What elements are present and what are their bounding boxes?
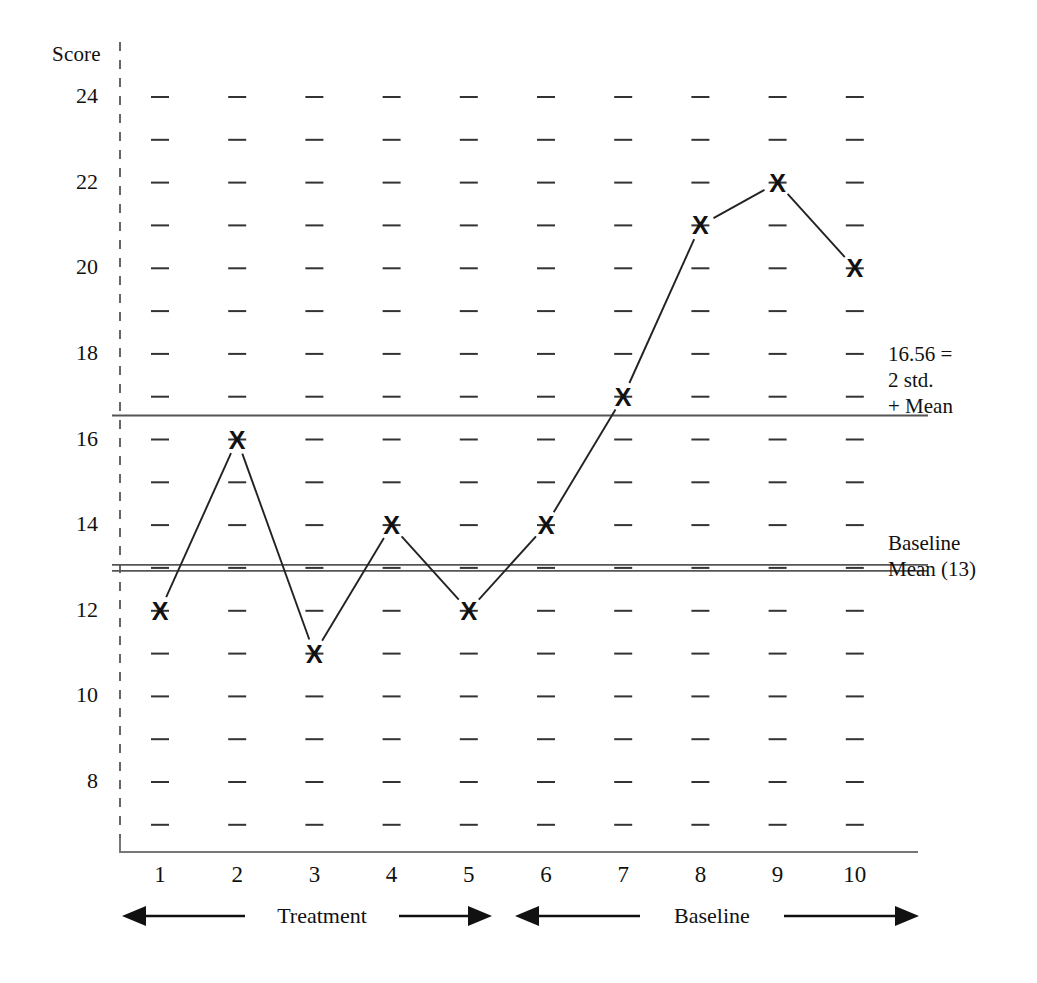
mean-annot-line-1: Baseline [888, 530, 976, 556]
data-point-marker: X [612, 385, 634, 410]
data-point-marker: X [535, 513, 557, 538]
data-line-segment [714, 190, 765, 218]
data-point-marker: X [767, 171, 789, 196]
x-tick-label: 8 [670, 862, 730, 888]
x-tick-label: 1 [130, 862, 190, 888]
x-tick-label: 4 [362, 862, 422, 888]
x-tick-label: 7 [593, 862, 653, 888]
data-line-segment [554, 410, 616, 513]
data-point-marker: X [381, 513, 403, 538]
data-point-marker: X [149, 599, 171, 624]
data-point-marker: X [689, 213, 711, 238]
phase-label-baseline: Baseline [640, 903, 784, 929]
mean-reference-line-annotation: Baseline Mean (13) [888, 530, 976, 582]
data-line-segment [629, 239, 694, 383]
data-line-segment [402, 536, 459, 599]
y-tick-label: 18 [38, 340, 98, 366]
data-line-segment [242, 454, 309, 640]
upper-reference-line-annotation: 16.56 = 2 std. + Mean [888, 341, 953, 419]
data-line-segment [166, 453, 231, 597]
data-point-marker: X [226, 428, 248, 453]
x-axis-line [120, 838, 918, 852]
grid-dash-marks [151, 97, 864, 825]
data-line-segment [479, 536, 536, 599]
data-point-marker: X [458, 599, 480, 624]
upper-annot-line-2: 2 std. [888, 367, 953, 393]
y-tick-label: 24 [38, 83, 98, 109]
upper-annot-line-3: + Mean [888, 393, 953, 419]
single-case-design-chart: Score 24222018161412108 12345678910 XXXX… [0, 0, 1037, 983]
chart-vector-layer [0, 0, 1037, 983]
y-tick-label: 8 [38, 768, 98, 794]
data-point-marker: X [844, 256, 866, 281]
mean-annot-line-2: Mean (13) [888, 556, 976, 582]
y-tick-label: 10 [38, 682, 98, 708]
x-tick-label: 3 [284, 862, 344, 888]
y-tick-label: 16 [38, 426, 98, 452]
data-line-segment [788, 194, 845, 257]
y-tick-label: 14 [38, 511, 98, 537]
phase-arrow-bars [122, 906, 919, 926]
y-tick-label: 20 [38, 254, 98, 280]
data-line-segment [322, 538, 384, 641]
x-tick-label: 6 [516, 862, 576, 888]
y-tick-label: 22 [38, 169, 98, 195]
y-tick-label: 12 [38, 597, 98, 623]
x-tick-label: 2 [207, 862, 267, 888]
x-tick-label: 9 [748, 862, 808, 888]
y-axis-title: Score [52, 42, 101, 67]
x-tick-label: 5 [439, 862, 499, 888]
x-tick-label: 10 [825, 862, 885, 888]
data-point-marker: X [303, 642, 325, 667]
upper-annot-line-1: 16.56 = [888, 341, 953, 367]
phase-label-treatment: Treatment [245, 903, 399, 929]
